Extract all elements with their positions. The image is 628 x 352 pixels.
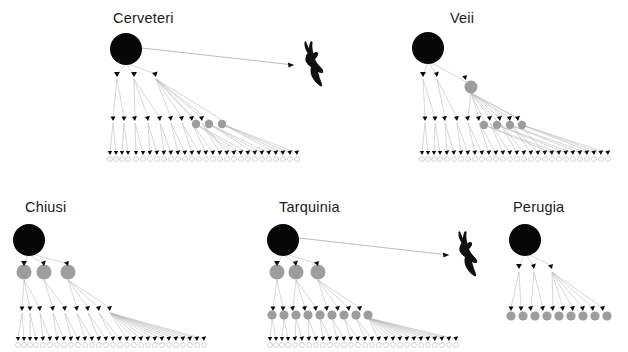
panel-title-perugia: Perugia [513, 199, 564, 215]
gray-node[interactable] [530, 311, 539, 320]
gray-node[interactable] [578, 311, 587, 320]
gray-node[interactable] [518, 311, 527, 320]
network-graph-perugia [0, 0, 628, 352]
gray-node[interactable] [590, 311, 599, 320]
gray-node[interactable] [542, 311, 551, 320]
gray-node[interactable] [506, 311, 515, 320]
gray-node[interactable] [566, 311, 575, 320]
panel-perugia: Perugia [0, 0, 628, 352]
figure-canvas: Cerveteri [0, 0, 628, 352]
nodes-perugia [506, 224, 611, 321]
edges-perugia [511, 254, 603, 308]
gray-node[interactable] [602, 311, 611, 320]
root-node-perugia[interactable] [509, 224, 541, 256]
gray-node[interactable] [554, 311, 563, 320]
